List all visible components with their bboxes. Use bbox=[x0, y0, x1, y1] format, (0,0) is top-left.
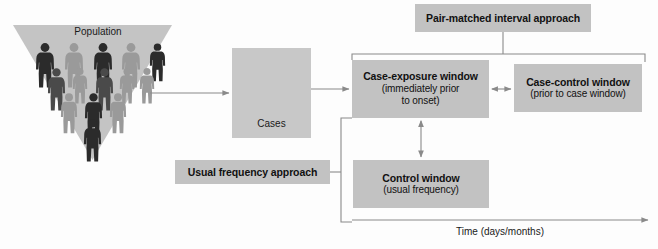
cases-label: Cases bbox=[232, 118, 311, 129]
box-control-window[interactable]: Control window (usual frequency) bbox=[353, 160, 489, 208]
box-case-control-title: Case-control window bbox=[526, 76, 630, 89]
box-pair-matched-interval-approach[interactable]: Pair-matched interval approach bbox=[415, 4, 591, 32]
box-case-exposure-subtitle-line2: to onset) bbox=[401, 95, 439, 107]
box-usual-frequency-title: Usual frequency approach bbox=[188, 166, 317, 179]
box-case-exposure-title: Case-exposure window bbox=[363, 70, 478, 83]
box-control-subtitle: (usual frequency) bbox=[383, 184, 459, 196]
diagram-vector-layer bbox=[0, 0, 658, 249]
bracket-usual-frequency bbox=[330, 118, 352, 222]
time-axis-label: Time (days/months) bbox=[400, 226, 600, 237]
study-design-diagram: Population Cases Pair-matched interval a… bbox=[0, 0, 658, 249]
box-case-control-window[interactable]: Case-control window (prior to case windo… bbox=[514, 64, 642, 112]
box-usual-frequency-approach[interactable]: Usual frequency approach bbox=[175, 160, 330, 184]
box-control-title: Control window bbox=[382, 172, 459, 185]
population-label: Population bbox=[62, 26, 134, 37]
box-case-exposure-subtitle-line1: (immediately prior bbox=[382, 83, 460, 95]
box-pair-matched-title: Pair-matched interval approach bbox=[426, 12, 580, 25]
box-case-control-subtitle: (prior to case window) bbox=[530, 88, 626, 100]
box-case-exposure-window[interactable]: Case-exposure window (immediately prior … bbox=[352, 60, 489, 118]
bracket-pair-matched bbox=[352, 32, 645, 62]
